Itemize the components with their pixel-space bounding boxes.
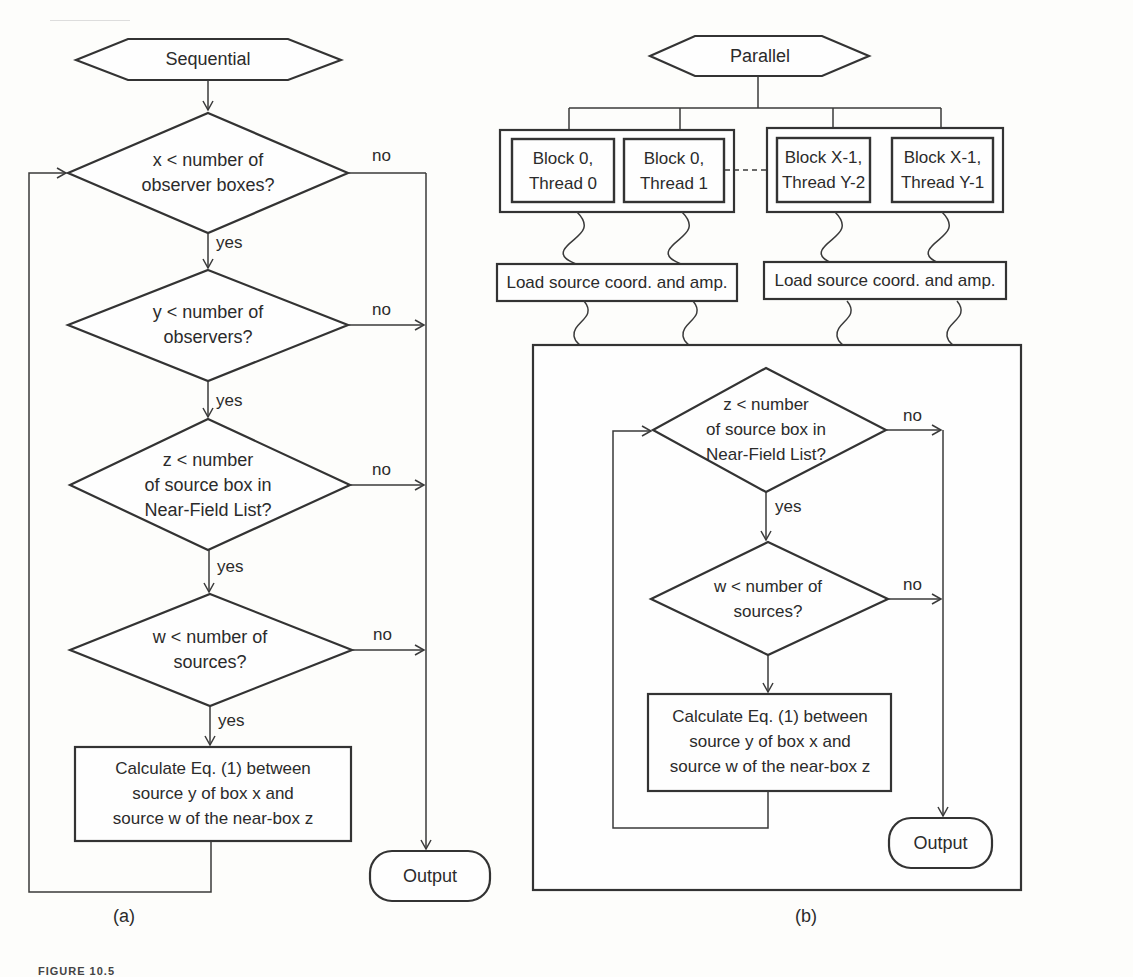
decision-w-text: w < number of sources? [120,625,300,675]
yes-label: yes [218,711,244,731]
yes-label: yes [216,391,242,411]
load-label-right: Load source coord. and amp. [764,268,1006,293]
thread-label-1: Block 0, Thread 1 [624,146,724,196]
decision-w-b-text: w < number of sources? [688,574,848,624]
decision-x-text: x < number of observer boxes? [118,148,298,198]
caption-b: (b) [795,906,817,927]
yes-label: yes [216,233,242,253]
thread-label-2: Block X-1, Thread Y-2 [777,145,870,195]
thread-label-3: Block X-1, Thread Y-1 [892,145,993,195]
load-label-left: Load source coord. and amp. [497,270,737,295]
no-label: no [903,406,922,426]
decision-y-text: y < number of observers? [118,300,298,350]
output-label-a: Output [370,864,490,889]
thread-label-0: Block 0, Thread 0 [512,146,614,196]
output-label-b: Output [889,831,992,856]
start-label-sequential: Sequential [148,47,268,72]
no-label: no [373,625,392,645]
yes-label: yes [217,557,243,577]
no-label: no [903,575,922,595]
figure-label: FIGURE 10.5 [38,965,115,977]
no-label: no [372,460,391,480]
process-text-b: Calculate Eq. (1) between source y of bo… [650,704,890,779]
no-label: no [372,300,391,320]
decision-z-text: z < number of source box in Near-Field L… [118,448,298,523]
no-label: no [372,146,391,166]
decision-z-b-text: z < number of source box in Near-Field L… [686,392,846,467]
caption-a: (a) [113,906,135,927]
process-text-a: Calculate Eq. (1) between source y of bo… [78,756,348,831]
start-label-parallel: Parallel [700,44,820,69]
yes-label: yes [775,497,801,517]
